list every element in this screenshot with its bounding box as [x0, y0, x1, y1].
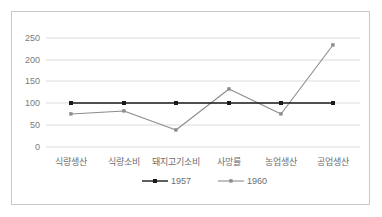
data-point-1957-0	[69, 101, 73, 105]
x-tick-label-5: 공업생산	[317, 157, 349, 167]
data-point-1960-5	[331, 43, 334, 46]
y-tick-label-0: 0	[14, 143, 40, 152]
x-tick-label-4: 농업생산	[265, 157, 297, 167]
data-point-1957-4	[279, 101, 283, 105]
x-tick-label-0: 식량생산	[55, 157, 87, 167]
y-tick-label-50: 50	[14, 121, 40, 130]
gridlines	[46, 38, 360, 147]
legend-label-1957: 1957	[171, 176, 191, 186]
data-point-1960-2	[174, 128, 177, 131]
data-point-1957-3	[227, 101, 231, 105]
data-point-1960-3	[227, 87, 230, 90]
series-line-1957	[69, 101, 335, 105]
data-point-1957-1	[122, 101, 126, 105]
chart-figure: 250 200 150 100 50 0 식량생산 식량소비 돼지고기소비 사망…	[0, 0, 382, 217]
y-tick-label-150: 150	[14, 77, 40, 86]
data-point-1960-0	[69, 112, 72, 115]
y-tick-label-100: 100	[14, 99, 40, 108]
data-point-1960-4	[279, 112, 282, 115]
data-point-1957-5	[331, 101, 335, 105]
x-tick-label-2: 돼지고기소비	[152, 157, 200, 167]
y-tick-label-250: 250	[14, 34, 40, 43]
legend-label-1960: 1960	[247, 176, 267, 186]
data-point-1960-1	[122, 109, 125, 112]
data-point-1957-2	[174, 101, 178, 105]
x-tick-label-3: 사망률	[217, 157, 241, 167]
legend-marker-1960	[218, 179, 244, 182]
series-line-1960	[69, 43, 334, 131]
legend-marker-1957	[142, 179, 168, 183]
y-tick-label-200: 200	[14, 56, 40, 65]
x-tick-label-1: 식량소비	[108, 157, 140, 167]
